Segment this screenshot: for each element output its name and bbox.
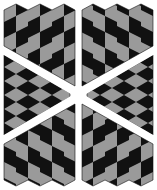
checker-illusion-figure	[0, 0, 157, 190]
